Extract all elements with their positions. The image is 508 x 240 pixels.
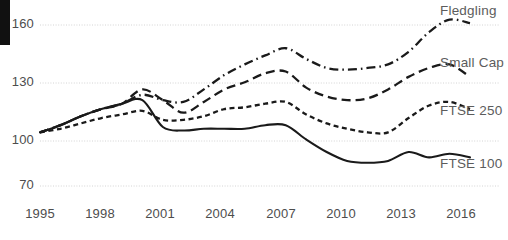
series-label-fledgling: Fledgling	[440, 3, 497, 18]
x-tick-label: 2004	[192, 206, 248, 221]
series-line-ftse-100	[40, 99, 470, 163]
y-tick-label: 100	[0, 132, 34, 147]
x-tick-label: 2001	[132, 206, 188, 221]
series-line-small-cap	[40, 64, 470, 132]
y-tick-label: 130	[0, 74, 34, 89]
chart-container: 16013010070 1995199820012004200720102013…	[0, 0, 508, 240]
y-tick-label: 160	[0, 16, 34, 31]
x-tick-label: 2007	[253, 206, 309, 221]
x-tick-label: 1998	[72, 206, 128, 221]
series-label-ftse-100: FTSE 100	[440, 156, 502, 171]
line-chart-plot	[0, 0, 508, 240]
series-label-ftse-250: FTSE 250	[440, 103, 502, 118]
series-line-fledgling	[40, 19, 470, 132]
series-lines	[40, 19, 470, 162]
series-line-ftse-250	[40, 101, 470, 133]
series-label-small-cap: Small Cap	[440, 55, 504, 70]
y-tick-label: 70	[0, 177, 34, 192]
x-tick-label: 1995	[12, 206, 68, 221]
x-tick-label: 2010	[313, 206, 369, 221]
x-tick-label: 2013	[373, 206, 429, 221]
x-tick-label: 2016	[433, 206, 489, 221]
